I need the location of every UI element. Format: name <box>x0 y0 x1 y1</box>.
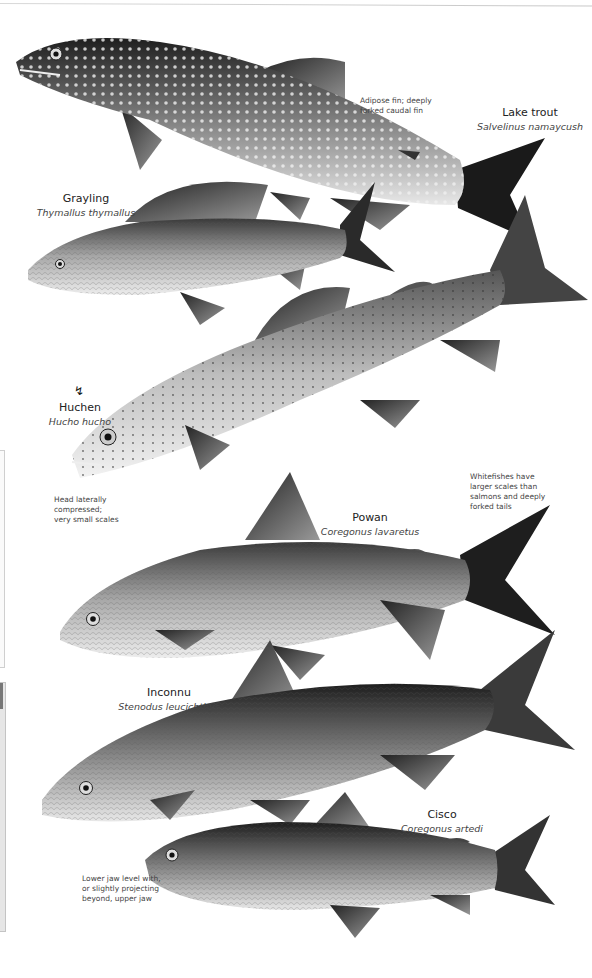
note-line: Lower jaw level with, <box>82 874 161 884</box>
label-grayling: Grayling Thymallus thymallus <box>34 192 138 219</box>
scientific-name: Thymallus thymallus <box>34 206 138 219</box>
label-powan: Powan Coregonus lavaretus <box>320 511 420 538</box>
huchen-annotation: Head laterally compressed; very small sc… <box>54 495 119 525</box>
scientific-name: Salvelinus namaycush <box>470 120 590 133</box>
common-name: Lake trout <box>470 106 590 120</box>
cisco-annotation: Lower jaw level with, or slightly projec… <box>82 874 161 904</box>
note-line: very small scales <box>54 515 119 525</box>
lake-trout-annotation: Adipose fin; deeply forked caudal fin <box>360 96 432 116</box>
note-line: Head laterally <box>54 495 119 505</box>
common-name: Huchen <box>42 401 118 415</box>
note-line: Adipose fin; deeply <box>360 96 432 106</box>
whitefish-annotation: Whitefishes have larger scales than salm… <box>470 472 545 512</box>
common-name: Inconnu <box>114 686 224 700</box>
scientific-name: Stenodus leucichthys <box>114 700 224 713</box>
label-lake-trout: Lake trout Salvelinus namaycush <box>470 106 590 133</box>
common-name: Powan <box>320 511 420 525</box>
common-name: Grayling <box>34 192 138 206</box>
common-name: Cisco <box>392 808 492 822</box>
label-cisco: Cisco Coregonus artedi <box>392 808 492 835</box>
note-line: Whitefishes have <box>470 472 545 482</box>
label-inconnu: Inconnu Stenodus leucichthys <box>114 686 224 713</box>
note-line: forked caudal fin <box>360 106 432 116</box>
note-line: forked tails <box>470 502 545 512</box>
endangered-mark-icon: ↯ <box>74 384 84 398</box>
note-line: or slightly projecting <box>82 884 161 894</box>
fish-cisco <box>145 792 555 938</box>
note-line: beyond, upper jaw <box>82 894 161 904</box>
note-line: compressed; <box>54 505 119 515</box>
scientific-name: Coregonus artedi <box>392 822 492 835</box>
scientific-name: Coregonus lavaretus <box>320 525 420 538</box>
scientific-name: Hucho hucho <box>42 415 118 428</box>
note-line: larger scales than <box>470 482 545 492</box>
label-huchen: Huchen Hucho hucho <box>42 401 118 428</box>
note-line: salmons and deeply <box>470 492 545 502</box>
